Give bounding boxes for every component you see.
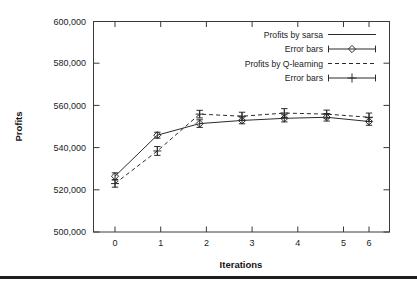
legend-label-error-bars-q-learning: Error bars — [285, 73, 323, 83]
x-tick-label-0: 0 — [112, 238, 117, 248]
y-tick-label-580000: 580,000 — [53, 58, 86, 68]
legend-label-profits-by-q-learning: Profits by Q-learning — [245, 59, 324, 69]
y-tick-label-520000: 520,000 — [53, 185, 86, 195]
x-tick-label-5: 5 — [341, 238, 346, 248]
y-tick-label-540000: 540,000 — [53, 143, 86, 153]
x-tick-label-4: 4 — [295, 238, 300, 248]
chart-figure: 500,000 520,000 540,000 560,000 580,000 … — [0, 0, 417, 288]
x-tick-label-1: 1 — [158, 238, 163, 248]
profits-vs-iterations-chart: 500,000 520,000 540,000 560,000 580,000 … — [0, 0, 417, 288]
legend-label-profits-by-sarsa: Profits by sarsa — [264, 30, 323, 40]
bottom-rule — [0, 276, 417, 279]
x-tick-label-6: 6 — [366, 238, 371, 248]
x-tick-label-3: 3 — [250, 238, 255, 248]
legend-label-error-bars-sarsa: Error bars — [285, 44, 323, 54]
x-axis-title: Iterations — [220, 259, 263, 270]
x-tick-label-2: 2 — [204, 238, 209, 248]
y-axis-title: Profits — [13, 111, 24, 141]
y-tick-label-600000: 600,000 — [53, 17, 86, 27]
y-tick-label-500000: 500,000 — [53, 227, 86, 237]
y-tick-label-560000: 560,000 — [53, 101, 86, 111]
